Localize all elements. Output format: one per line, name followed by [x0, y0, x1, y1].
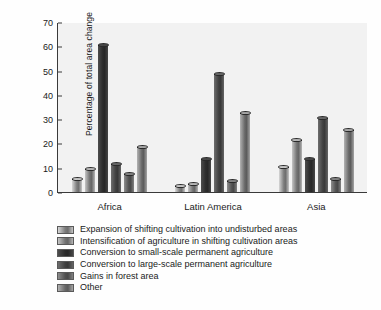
bar-cap [175, 184, 186, 188]
bar-cap [72, 177, 83, 181]
y-tick-label: 20 [18, 140, 58, 149]
bar[interactable] [72, 179, 82, 192]
y-tick-label: 70 [18, 19, 58, 28]
legend-swatch [57, 226, 74, 234]
legend-swatch [57, 284, 74, 292]
bar-group: Latin America [161, 23, 264, 192]
bar-cap [85, 167, 96, 171]
y-tick-label: 10 [18, 164, 58, 173]
legend-item[interactable]: Other [57, 282, 298, 294]
bar-cap [240, 111, 251, 115]
legend-label: Gains in forest area [80, 271, 159, 282]
bar-cap [278, 165, 289, 169]
legend-swatch [57, 261, 74, 269]
legend-item[interactable]: Conversion to small-scale permanent agri… [57, 247, 298, 259]
legend-item[interactable]: Expansion of shifting cultivation into u… [57, 224, 298, 236]
bar[interactable] [240, 113, 250, 192]
y-tick-label: 40 [18, 91, 58, 100]
bar[interactable] [214, 74, 224, 192]
bar[interactable] [331, 179, 341, 192]
bar[interactable] [85, 169, 95, 192]
x-axis-group-label: Latin America [161, 192, 264, 212]
bar-cap [98, 43, 109, 47]
bar-cap [291, 138, 302, 142]
bar[interactable] [124, 174, 134, 192]
bar-chart-figure: Percentage of total area change 01020304… [0, 0, 381, 310]
bar[interactable] [344, 130, 354, 192]
y-tick-label: 50 [18, 67, 58, 76]
legend-label: Conversion to large-scale permanent agri… [80, 259, 272, 270]
legend-label: Other [80, 282, 103, 293]
bar-cap [227, 179, 238, 183]
bar-group: Asia [265, 23, 368, 192]
bar-cap [124, 172, 135, 176]
bar[interactable] [227, 181, 237, 192]
legend-swatch [57, 272, 74, 280]
y-tick-label: 30 [18, 116, 58, 125]
bar-cap [317, 116, 328, 120]
plot-area: Percentage of total area change 01020304… [57, 23, 367, 193]
bar-cap [188, 182, 199, 186]
bar[interactable] [201, 159, 211, 192]
bar-cap [137, 145, 148, 149]
bar[interactable] [188, 184, 198, 192]
legend-label: Expansion of shifting cultivation into u… [80, 224, 297, 235]
legend-item[interactable]: Gains in forest area [57, 270, 298, 282]
legend-label: Conversion to small-scale permanent agri… [80, 247, 273, 258]
legend-item[interactable]: Intensification of agriculture in shifti… [57, 236, 298, 248]
bar[interactable] [279, 167, 289, 192]
legend-label: Intensification of agriculture in shifti… [80, 236, 298, 247]
bar[interactable] [111, 164, 121, 192]
bar[interactable] [318, 118, 328, 192]
bar[interactable] [137, 147, 147, 192]
bar-cap [304, 157, 315, 161]
legend-item[interactable]: Conversion to large-scale permanent agri… [57, 259, 298, 271]
bar[interactable] [305, 159, 315, 192]
bar-cap [201, 157, 212, 161]
bar[interactable] [98, 45, 108, 192]
bar-cap [330, 177, 341, 181]
y-tick-label: 0 [18, 189, 58, 198]
legend-swatch [57, 237, 74, 245]
x-axis-group-label: Africa [58, 192, 161, 212]
bar-cap [111, 162, 122, 166]
bar-cap [343, 128, 354, 132]
y-tick-label: 60 [18, 43, 58, 52]
bar-group: Africa [58, 23, 161, 192]
legend-swatch [57, 249, 74, 257]
bar-cap [214, 72, 225, 76]
x-axis-group-label: Asia [265, 192, 368, 212]
chart-legend: Expansion of shifting cultivation into u… [57, 224, 298, 294]
bar[interactable] [292, 140, 302, 192]
